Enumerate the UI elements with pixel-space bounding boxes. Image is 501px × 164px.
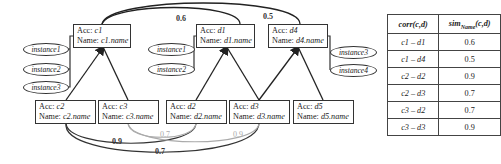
acc-label: Acc:	[77, 26, 95, 35]
acc-label: Acc:	[233, 102, 251, 111]
edge-label-c1-d1: 0.6	[176, 14, 186, 23]
name-value: c1.name	[101, 36, 129, 45]
node-d5: Acc: d5 Name: d5.name	[293, 100, 354, 124]
instance-c1-2: instance2	[23, 63, 69, 76]
node-d2: Acc: d2 Name: d2.name	[166, 100, 227, 124]
instance-d1-2: instance2	[148, 63, 195, 76]
node-d4: Acc: d4 Name: d4.name	[268, 24, 328, 48]
table-row: c3 – d30.9	[388, 119, 501, 136]
edge-label-c2-d3: 0.7	[155, 147, 165, 156]
edge-label-c3-d2: 0.7	[160, 130, 170, 139]
name-value: d3.name	[257, 112, 285, 121]
node-d3: Acc: d3 Name: d3.name	[229, 100, 290, 124]
name-label: Name:	[170, 112, 194, 121]
name-label: Name:	[200, 36, 224, 45]
acc-value: c1	[95, 26, 103, 35]
acc-label: Acc:	[170, 102, 188, 111]
acc-value: c3	[120, 102, 128, 111]
instance-c1-3: instance3	[23, 81, 69, 94]
acc-value: d1	[218, 26, 226, 35]
acc-label: Acc:	[102, 102, 120, 111]
name-label: Name:	[297, 112, 321, 121]
name-value: d5.name	[321, 112, 349, 121]
table-row: c2 – d30.7	[388, 85, 501, 102]
node-c3: Acc: c3 Name: c3.name	[98, 100, 159, 124]
name-value: c3.name	[126, 112, 154, 121]
header-sim: simName(c,d)	[439, 15, 501, 34]
name-value: d4.name	[296, 36, 324, 45]
instance-d4-3: instance3	[330, 46, 377, 59]
instance-d1-1: instance1	[148, 43, 195, 56]
acc-label: Acc:	[200, 26, 218, 35]
acc-value: d4	[290, 26, 298, 35]
edge-label-c2-d2: 0.9	[112, 137, 122, 146]
table-row: c1 – d40.5	[388, 51, 501, 68]
instance-c1-1: instance1	[23, 43, 69, 56]
name-label: Name:	[39, 112, 63, 121]
header-corr: corr(c,d)	[388, 15, 439, 34]
correspondence-table: corr(c,d) simName(c,d) c1 – d10.6 c1 – d…	[387, 14, 501, 136]
instance-d4-4: instance4	[330, 64, 377, 77]
node-c2: Acc: c2 Name: c2.name	[35, 100, 96, 124]
edge-c2-d2	[66, 123, 196, 143]
name-label: Name:	[77, 36, 101, 45]
acc-label: Acc:	[297, 102, 315, 111]
name-value: c2.name	[63, 112, 91, 121]
name-value: d1.name	[224, 36, 252, 45]
table-row: c1 – d10.6	[388, 34, 501, 51]
edge-c1-d1	[102, 8, 240, 25]
table-row: c3 – d20.7	[388, 102, 501, 119]
acc-label: Acc:	[39, 102, 57, 111]
edge-label-c3-d3: 0.9	[233, 130, 243, 139]
acc-label: Acc:	[272, 26, 290, 35]
name-label: Name:	[272, 36, 296, 45]
acc-value: d2	[188, 102, 196, 111]
name-label: Name:	[102, 112, 126, 121]
table-row: c2 – d20.9	[388, 68, 501, 85]
edge-label-c1-d4: 0.5	[263, 12, 273, 21]
node-d1: Acc: d1 Name: d1.name	[196, 24, 255, 48]
node-c1: Acc: c1 Name: c1.name	[73, 24, 131, 48]
acc-value: c2	[57, 102, 65, 111]
name-value: d2.name	[194, 112, 222, 121]
acc-value: d3	[251, 102, 259, 111]
name-label: Name:	[233, 112, 257, 121]
acc-value: d5	[315, 102, 323, 111]
